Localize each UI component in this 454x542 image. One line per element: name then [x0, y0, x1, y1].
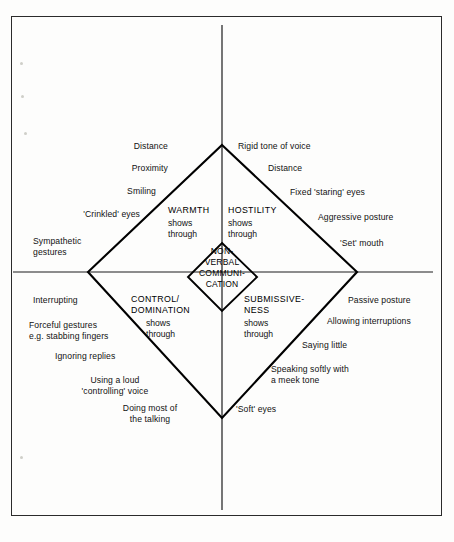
cue-hostility-2: Fixed 'staring' eyes — [290, 187, 365, 198]
cue-control-3: Using a loud 'controlling' voice — [60, 375, 170, 397]
cue-warmth-4: Sympathetic gestures — [33, 236, 123, 258]
cue-submissive-3: Speaking softly with a meek tone — [271, 364, 349, 386]
cue-control-4: Doing most of the talking — [95, 403, 205, 425]
quadrant-subtitle-hostility: shows through — [228, 218, 257, 240]
quadrant-subtitle-warmth: shows through — [168, 218, 197, 240]
cue-hostility-1: Distance — [268, 163, 302, 174]
cue-control-2: Ignoring replies — [55, 351, 115, 362]
quadrant-title-warmth: WARMTH — [168, 205, 209, 216]
cue-warmth-3: 'Crinkled' eyes — [44, 209, 140, 220]
cue-submissive-1: Allowing interruptions — [327, 316, 411, 327]
cue-hostility-3: Aggressive posture — [318, 212, 393, 223]
quadrant-subtitle-control-domination: shows through — [146, 318, 175, 340]
cue-hostility-0: Rigid tone of voice — [238, 141, 311, 152]
cue-warmth-2: Smiling — [72, 186, 156, 197]
cue-hostility-4: 'Set' mouth — [340, 238, 384, 249]
cue-submissive-4: 'Soft' eyes — [236, 404, 276, 415]
quadrant-title-control-domination: CONTROL/ DOMINATION — [131, 294, 190, 317]
figure-page: NON- VERBAL COMMUNI- CATION WARMTH shows… — [0, 0, 454, 542]
core-label: NON- VERBAL COMMUNI- CATION — [176, 246, 268, 290]
quadrant-title-hostility: HOSTILITY — [228, 205, 277, 216]
cue-submissive-0: Passive posture — [348, 295, 411, 306]
cue-warmth-1: Proximity — [90, 163, 168, 174]
cue-warmth-0: Distance — [104, 141, 168, 152]
quadrant-title-submissiveness: SUBMISSIVE- NESS — [244, 294, 305, 317]
quadrant-subtitle-submissiveness: shows through — [244, 318, 273, 340]
cue-control-1: Forceful gestures e.g. stabbing fingers — [29, 320, 109, 342]
cue-control-0: Interrupting — [33, 295, 78, 306]
cue-submissive-2: Saying little — [302, 340, 347, 351]
